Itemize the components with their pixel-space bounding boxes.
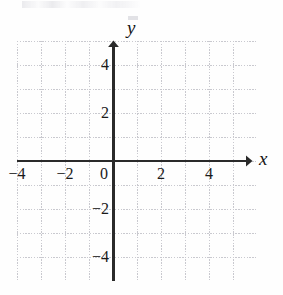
plot-area (17, 41, 257, 281)
y-tick-label-4: 4 (92, 57, 109, 73)
grid-lines (17, 41, 257, 281)
y-tick-label-2: 2 (92, 105, 109, 121)
x-tick-label--2: −2 (56, 166, 73, 182)
x-tick-label--4: −4 (8, 166, 25, 182)
coordinate-plane-figure: −4 −2 0 2 4 4 2 −2 −4 x y (0, 0, 283, 295)
y-tick-label--4: −4 (85, 249, 109, 265)
scan-artifact (22, 1, 140, 8)
x-axis-name-label: x (259, 149, 267, 168)
x-tick-label-4: 4 (205, 166, 213, 182)
x-tick-label-0: 0 (100, 166, 108, 182)
x-tick-label-2: 2 (157, 166, 165, 182)
y-tick-label--2: −2 (85, 201, 109, 217)
y-axis-name-label: y (127, 18, 135, 37)
